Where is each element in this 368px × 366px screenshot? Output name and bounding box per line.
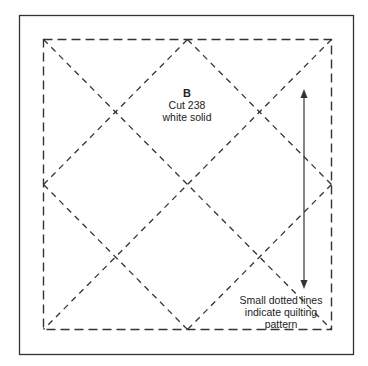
note-line-2: indicate quilting [228, 306, 334, 318]
diagonal-tr-bl [44, 40, 332, 330]
block-letter: B [137, 87, 237, 99]
block-outline-dashed [44, 40, 332, 330]
measurement-arrow [301, 89, 308, 289]
note-line-1: Small dotted lines [228, 294, 334, 306]
block-label: B Cut 238 white solid [137, 87, 237, 123]
quilting-note: Small dotted lines indicate quilting pat… [228, 294, 334, 330]
arrow-down-icon [301, 280, 308, 289]
quilting-lines [44, 40, 332, 330]
block-fabric: white solid [137, 111, 237, 123]
block-cut-count: Cut 238 [137, 99, 237, 111]
diagonal-tl-br [44, 40, 332, 330]
note-line-3: pattern [228, 318, 334, 330]
arrow-up-icon [301, 89, 308, 98]
